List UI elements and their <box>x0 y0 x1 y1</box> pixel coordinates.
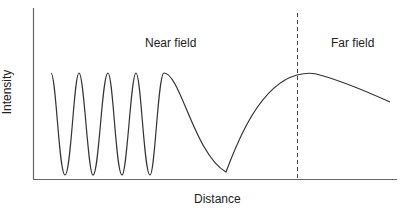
intensity-curve <box>51 73 390 175</box>
far-field-label: Far field <box>331 37 374 49</box>
intensity-vs-distance-diagram <box>0 0 403 210</box>
x-axis-label: Distance <box>194 193 241 205</box>
y-axis-label: Intensity <box>1 70 13 115</box>
near-field-label: Near field <box>145 37 196 49</box>
